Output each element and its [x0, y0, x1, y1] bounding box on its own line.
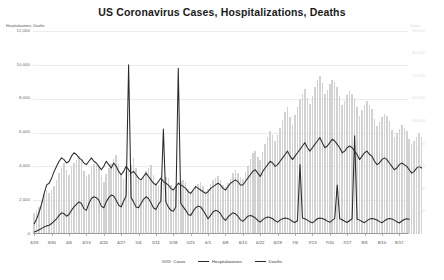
left-axis-caption: Hospitalizations, Deaths	[6, 24, 45, 28]
x-tick-mark	[208, 234, 209, 236]
y2-tick-label: 40,000	[412, 142, 425, 146]
x-tick-label: 6/8	[222, 241, 228, 245]
legend-label: Cases	[173, 259, 185, 264]
x-tick-label: 4/20	[100, 241, 108, 245]
x-tick-mark	[347, 234, 348, 236]
y-tick-label: 10,000	[17, 63, 30, 67]
chart-legend: CasesHospitalizationsDeaths	[0, 259, 444, 264]
x-tick-label: 7/13	[308, 241, 316, 245]
legend-item[interactable]: Deaths	[255, 259, 282, 264]
hospitalizations-line	[34, 138, 421, 224]
y-tick-label: 2,000	[19, 198, 30, 202]
y-tick-label: 4,000	[19, 164, 30, 168]
x-tick-label: 5/25	[187, 241, 195, 245]
y-tick-label: 8,000	[19, 96, 30, 100]
legend-label: Deaths	[269, 259, 283, 264]
y-tick-label: 6,000	[19, 130, 30, 134]
plot-area: 02,0004,0006,0008,00010,00012,000 10,000…	[33, 31, 408, 234]
y-tick-label: 0	[28, 232, 30, 236]
x-tick-mark	[191, 234, 192, 236]
y2-tick-label: 90,000	[412, 29, 425, 33]
legend-item[interactable]: Cases	[162, 259, 186, 264]
x-tick-label: 5/4	[136, 241, 142, 245]
x-tick-label: 8/10	[378, 241, 386, 245]
y2-tick-label: 10,000	[412, 209, 425, 213]
legend-line-swatch-icon	[255, 261, 266, 262]
y-tick-label: 12,000	[17, 29, 30, 33]
x-tick-label: 7/20	[326, 241, 334, 245]
x-tick-label: 7/6	[292, 241, 298, 245]
y2-tick-label: 70,000	[412, 74, 425, 78]
x-tick-label: 4/27	[117, 241, 125, 245]
x-tick-mark	[399, 234, 400, 236]
x-tick-mark	[69, 234, 70, 236]
line-series-layer	[33, 31, 408, 234]
x-tick-mark	[139, 234, 140, 236]
x-tick-mark	[278, 234, 279, 236]
y2-tick-label: 60,000	[412, 96, 425, 100]
x-tick-mark	[225, 234, 226, 236]
x-tick-label: 6/22	[256, 241, 264, 245]
x-tick-mark	[173, 234, 174, 236]
x-tick-label: 8/3	[362, 241, 368, 245]
x-tick-label: 6/15	[239, 241, 247, 245]
y2-tick-label: 20,000	[412, 187, 425, 191]
x-tick-mark	[52, 234, 53, 236]
x-tick-label: 4/6	[66, 241, 72, 245]
chart-title: US Coronavirus Cases, Hospitalizations, …	[0, 6, 444, 18]
x-tick-label: 7/27	[343, 241, 351, 245]
bar	[418, 133, 420, 234]
x-tick-label: 6/1	[205, 241, 211, 245]
x-tick-label: 5/11	[152, 241, 160, 245]
x-tick-mark	[330, 234, 331, 236]
x-tick-label: 3/23	[30, 241, 38, 245]
x-tick-mark	[295, 234, 296, 236]
legend-line-swatch-icon	[198, 261, 209, 262]
axis-baseline	[33, 233, 408, 234]
legend-item[interactable]: Hospitalizations	[198, 259, 242, 264]
legend-bar-swatch-icon	[162, 260, 171, 262]
coronavirus-chart: US Coronavirus Cases, Hospitalizations, …	[0, 0, 444, 280]
x-tick-label: 5/18	[169, 241, 177, 245]
y2-tick-label: 30,000	[412, 164, 425, 168]
legend-label: Hospitalizations	[212, 259, 242, 264]
x-tick-mark	[365, 234, 366, 236]
x-tick-label: 8/17	[395, 241, 403, 245]
x-tick-mark	[156, 234, 157, 236]
x-tick-label: 6/29	[273, 241, 281, 245]
x-tick-mark	[382, 234, 383, 236]
x-tick-mark	[312, 234, 313, 236]
x-tick-mark	[86, 234, 87, 236]
x-tick-mark	[260, 234, 261, 236]
right-axis-caption: Cases	[410, 24, 420, 28]
x-tick-mark	[104, 234, 105, 236]
x-tick-label: 4/13	[82, 241, 90, 245]
y2-tick-label: 80,000	[412, 51, 425, 55]
x-tick-mark	[34, 234, 35, 236]
x-tick-mark	[121, 234, 122, 236]
x-tick-mark	[243, 234, 244, 236]
y2-tick-label: 50,000	[412, 119, 425, 123]
x-tick-label: 3/30	[47, 241, 55, 245]
